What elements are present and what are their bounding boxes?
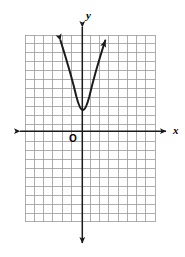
grid-lines (25, 35, 155, 222)
graph-figure: y x O (0, 0, 185, 257)
y-axis-label: y (86, 10, 91, 21)
axes (20, 27, 166, 243)
origin-label: O (69, 134, 77, 144)
x-axis-label: x (173, 125, 179, 136)
coordinate-plane (0, 0, 185, 257)
